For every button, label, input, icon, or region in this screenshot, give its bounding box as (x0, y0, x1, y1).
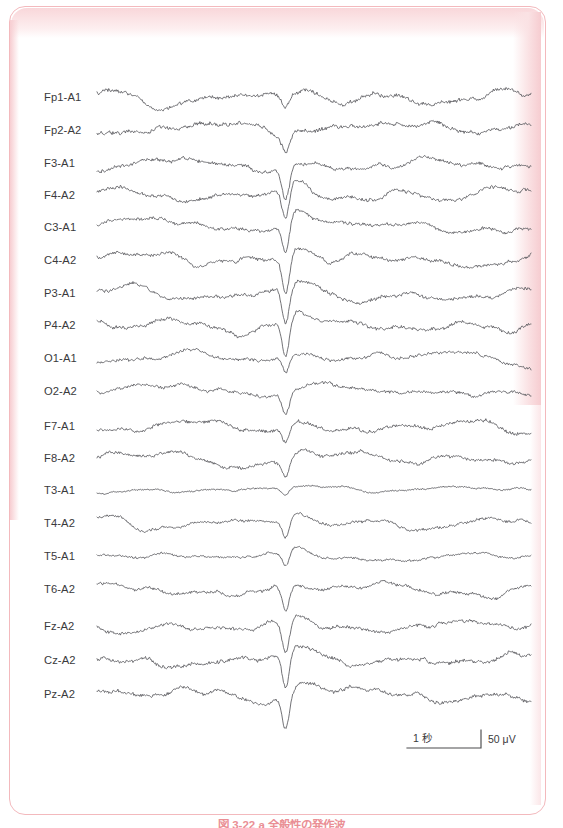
eeg-trace-c4-a2 (97, 248, 531, 294)
eeg-trace-fp2-a2 (97, 120, 531, 152)
calibration-amplitude-label: 50 μV (488, 733, 516, 745)
channel-label-c4-a2: C4-A2 (44, 254, 76, 266)
channel-label-group: Fp1-A1Fp2-A2F3-A1F4-A2C3-A1C4-A2P3-A1P4-… (44, 91, 81, 700)
eeg-trace-t6-a2 (97, 580, 531, 611)
calibration-time-label: 1 秒 (413, 732, 433, 744)
figure-caption: 図 3-22 a 全般性の発作波 (0, 819, 563, 828)
eeg-trace-t5-a1 (97, 546, 531, 565)
eeg-trace-f8-a2 (97, 449, 531, 477)
channel-label-t6-a2: T6-A2 (44, 583, 75, 595)
eeg-chart: Fp1-A1Fp2-A2F3-A1F4-A2C3-A1C4-A2P3-A1P4-… (9, 6, 546, 815)
eeg-trace-o2-a2 (97, 381, 531, 414)
channel-label-t5-a1: T5-A1 (44, 550, 75, 562)
channel-label-c3-a1: C3-A1 (44, 221, 76, 233)
eeg-trace-p3-a1 (97, 280, 531, 324)
eeg-trace-p4-a2 (97, 310, 531, 357)
channel-label-t4-a2: T4-A2 (44, 517, 75, 529)
calibration-bar: 1 秒 50 μV (407, 730, 516, 748)
channel-label-f8-a2: F8-A2 (44, 452, 75, 464)
channel-label-t3-a1: T3-A1 (44, 484, 75, 496)
channel-label-fz-a2: Fz-A2 (44, 620, 74, 632)
eeg-trace-o1-a1 (97, 348, 531, 373)
channel-label-p3-a1: P3-A1 (44, 287, 76, 299)
channel-label-fp1-a1: Fp1-A1 (44, 91, 81, 103)
channel-label-f4-a2: F4-A2 (44, 189, 75, 201)
channel-label-p4-a2: P4-A2 (44, 319, 76, 331)
eeg-trace-f7-a1 (97, 419, 531, 443)
channel-label-cz-a2: Cz-A2 (44, 654, 76, 666)
eeg-trace-f4-a2 (97, 180, 531, 218)
channel-label-pz-a2: Pz-A2 (44, 688, 75, 700)
eeg-trace-c3-a1 (97, 209, 531, 252)
channel-label-f7-a1: F7-A1 (44, 420, 75, 432)
eeg-trace-cz-a2 (97, 645, 531, 688)
eeg-trace-fz-a2 (97, 615, 531, 653)
channel-label-f3-a1: F3-A1 (44, 157, 75, 169)
eeg-trace-t3-a1 (97, 485, 531, 495)
eeg-plot-area: Fp1-A1Fp2-A2F3-A1F4-A2C3-A1C4-A2P3-A1P4-… (9, 6, 546, 815)
eeg-trace-t4-a2 (97, 512, 531, 538)
eeg-trace-group (97, 87, 531, 728)
eeg-trace-pz-a2 (97, 682, 531, 728)
channel-label-fp2-a2: Fp2-A2 (44, 124, 81, 136)
channel-label-o2-a2: O2-A2 (44, 385, 77, 397)
channel-label-o1-a1: O1-A1 (44, 352, 77, 364)
eeg-trace-fp1-a1 (97, 87, 531, 111)
